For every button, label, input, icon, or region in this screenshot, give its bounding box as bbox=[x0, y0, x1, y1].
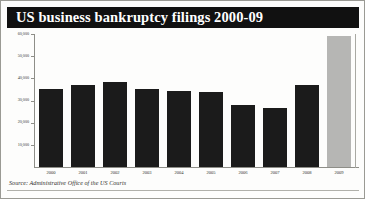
x-axis-tick-label: 2009 bbox=[323, 171, 355, 176]
bar-2003 bbox=[135, 89, 159, 167]
chart-figure: US business bankruptcy filings 2000-09 1… bbox=[0, 0, 365, 199]
y-axis-tick-label: 50,000 bbox=[7, 54, 29, 58]
bar-2007 bbox=[263, 108, 287, 167]
y-axis-tick-label: 20,000 bbox=[7, 120, 29, 124]
bar-2006 bbox=[231, 105, 255, 167]
plot-right-edge bbox=[355, 34, 356, 168]
x-axis-tick-label: 2004 bbox=[163, 171, 195, 176]
plot-area: 10,00020,00030,00040,00050,00060,000 200… bbox=[7, 31, 359, 174]
x-axis-tick-label: 2003 bbox=[131, 171, 163, 176]
chart-title-bar: US business bankruptcy filings 2000-09 bbox=[7, 7, 359, 28]
bar-2002 bbox=[103, 82, 127, 167]
x-axis-tick-label: 2007 bbox=[259, 171, 291, 176]
bar-2005 bbox=[199, 92, 223, 167]
y-axis-tick-label: 40,000 bbox=[7, 76, 29, 80]
x-axis-tick-label: 2000 bbox=[35, 171, 67, 176]
bar-2000 bbox=[39, 89, 63, 167]
source-note: Source: Administrative Office of the US … bbox=[9, 180, 126, 186]
x-axis-tick-label: 2002 bbox=[99, 171, 131, 176]
y-axis-tick-label: 30,000 bbox=[7, 98, 29, 102]
y-axis-tick-label: 10,000 bbox=[7, 143, 29, 147]
source-divider bbox=[7, 190, 359, 191]
x-axis-tick-label: 2001 bbox=[67, 171, 99, 176]
y-axis-tick-label: 60,000 bbox=[7, 32, 29, 36]
bar-2004 bbox=[167, 91, 191, 167]
x-axis-tick-label: 2008 bbox=[291, 171, 323, 176]
bar-2001 bbox=[71, 85, 95, 167]
bar-2009 bbox=[327, 36, 351, 167]
bar-2008 bbox=[295, 85, 319, 167]
bar-series bbox=[35, 31, 355, 168]
page-title: US business bankruptcy filings 2000-09 bbox=[16, 9, 263, 26]
x-axis-tick-label: 2006 bbox=[227, 171, 259, 176]
x-axis-tick-label: 2005 bbox=[195, 171, 227, 176]
